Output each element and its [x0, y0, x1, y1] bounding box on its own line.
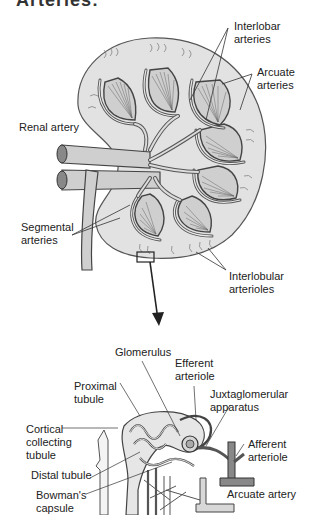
label-afferent-arteriole: Afferent arteriole: [248, 438, 288, 464]
label-glomerulus: Glomerulus: [115, 346, 171, 359]
label-distal-tubule: Distal tubule: [31, 469, 92, 482]
label-interlobular-arterioles: Interlobular arterioles: [229, 270, 284, 296]
label-arcuate-artery: Arcuate artery: [227, 488, 296, 501]
label-arcuate-arteries: Arcuate arteries: [257, 66, 295, 92]
label-juxtaglomerular-apparatus: Juxtaglomerular apparatus: [210, 388, 288, 414]
label-bowmans-capsule: Bowman's capsule: [36, 489, 86, 515]
kidney-anatomy-diagram: Arteries:: [0, 0, 309, 515]
zoom-arrow: [150, 262, 158, 320]
label-renal-artery: Renal artery: [19, 121, 79, 134]
label-proximal-tubule: Proximal tubule: [74, 380, 117, 406]
label-cortical-collecting-tubule: Cortical collecting tubule: [26, 423, 72, 462]
label-interlobar-arteries: Interlobar arteries: [234, 20, 280, 46]
label-segmental-arteries: Segmental arteries: [21, 221, 74, 247]
label-efferent-arteriole: Efferent arteriole: [175, 357, 215, 383]
